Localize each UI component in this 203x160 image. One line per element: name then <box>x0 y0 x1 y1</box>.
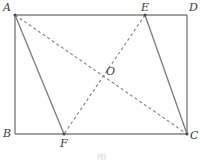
figure-caption: 图 <box>0 153 203 160</box>
vertex-label-C: C <box>190 130 198 141</box>
geometry-figure: A D B C E F O 图 <box>0 0 203 160</box>
geometry-diagram <box>0 0 203 160</box>
diagonal-AC-line <box>15 15 187 134</box>
vertex-dot-A <box>14 14 17 17</box>
vertex-label-B: B <box>3 128 11 139</box>
vertex-dot-C <box>186 133 189 136</box>
vertex-label-D: D <box>189 2 198 13</box>
vertex-label-A: A <box>3 2 11 13</box>
rectangle-outline <box>15 15 187 134</box>
segment-EC-line <box>145 15 187 134</box>
vertex-label-E: E <box>141 2 149 13</box>
segment-AF-line <box>15 15 64 134</box>
diagonal-EF-line <box>64 15 145 134</box>
solid-segments <box>15 15 187 134</box>
vertex-label-O: O <box>106 66 115 77</box>
dashed-diagonals <box>15 15 187 134</box>
vertex-dot-F <box>63 133 66 136</box>
vertex-label-F: F <box>60 138 68 149</box>
